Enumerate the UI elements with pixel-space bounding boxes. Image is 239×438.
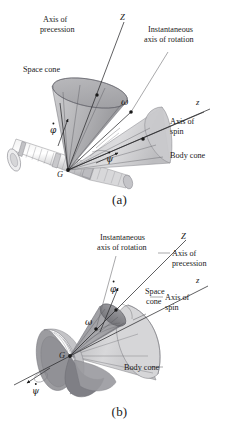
label-axis-of-precession-line1-b: Axis of — [172, 249, 197, 258]
label-phi-dot-b: φ — [110, 284, 117, 294]
label-Z-axis-a: Z — [120, 12, 125, 22]
caption-a: (a) — [0, 192, 239, 208]
spin-axis-point-a — [141, 137, 145, 141]
label-space-cone-line2-b: cone — [146, 297, 162, 306]
label-Z-axis-b: Z — [181, 231, 186, 241]
instantaneous-axis-leader-a — [131, 52, 168, 112]
label-instantaneous-axis-line2-b: axis of rotation — [97, 243, 147, 252]
label-psi-dot-b: ψ — [32, 386, 40, 396]
label-axis-of-spin-line1-b: Axis of — [165, 293, 190, 302]
z-axis-point-b — [114, 308, 117, 311]
label-psi-dot-a: ψ — [106, 154, 114, 164]
z-axis-point-a — [95, 93, 98, 96]
label-axis-of-precession-line1-a: Axis of — [43, 15, 68, 24]
center-of-mass-point-b — [68, 354, 72, 358]
label-body-cone-a: Body cone — [170, 151, 206, 160]
center-of-mass-point-a — [66, 168, 70, 172]
phi-dot-overdot-b — [113, 281, 115, 283]
label-axis-of-spin-line2-a: spin — [170, 127, 184, 136]
label-space-cone-a: Space cone — [23, 65, 60, 74]
label-instantaneous-axis-line2-a: axis of rotation — [144, 35, 194, 44]
label-axis-of-spin-line2-b: spin — [165, 303, 179, 312]
label-G-a: G — [57, 170, 63, 179]
omega-point-b — [94, 327, 98, 331]
label-instantaneous-axis-line1-b: Instantaneous — [100, 233, 145, 242]
figure-panel-a: Z ω z φ ψ G Axis of precession Instantan… — [0, 0, 239, 222]
label-omega-a: ω — [121, 97, 129, 107]
diagram-b-canvas: Z ω z φ ψ G Insta — [0, 222, 239, 408]
psi-dot-overdot-b — [35, 383, 37, 385]
label-space-cone-line1-b: Space — [145, 287, 165, 296]
label-axis-of-precession-line2-b: precession — [172, 259, 207, 268]
label-instantaneous-axis-line1-a: Instantaneous — [148, 25, 193, 34]
label-body-cone-b: Body cone — [124, 363, 160, 372]
diagram-a-canvas: Z ω z φ ψ G Axis of precession Instantan… — [0, 0, 239, 196]
omega-point-a — [129, 110, 133, 114]
label-z-axis-b: z — [195, 275, 200, 285]
label-z-axis-a: z — [195, 97, 200, 107]
label-omega-b: ω — [85, 317, 93, 327]
figure-panel-b: Z ω z φ ψ G Insta — [0, 222, 239, 438]
caption-b: (b) — [0, 404, 239, 420]
label-axis-of-precession-line2-a: precession — [40, 25, 75, 34]
phi-dot-overdot-a — [52, 123, 54, 125]
label-axis-of-spin-line1-a: Axis of — [170, 117, 195, 126]
label-G-b: G — [59, 351, 65, 360]
label-phi-dot-a: φ — [50, 125, 57, 135]
